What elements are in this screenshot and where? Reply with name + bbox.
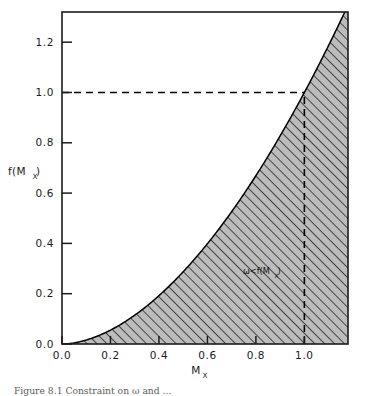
y-tick-label: 0.2 — [36, 287, 55, 299]
y-tick-label: 0.6 — [36, 187, 55, 199]
chart-canvas: 0.00.20.40.60.81.0 0.00.20.40.60.81.01.2… — [0, 0, 365, 396]
y-axis-title: f(M X ) — [8, 165, 41, 181]
y-tick-label: 1.2 — [36, 36, 55, 48]
y-axis-title-text: f(M — [8, 165, 26, 177]
x-axis-tick-labels: 0.00.20.40.60.81.0 — [53, 349, 314, 361]
region-annotation-text: ω<f(M — [243, 266, 270, 276]
region-annotation-closeparen: ) — [278, 266, 281, 276]
y-tick-label: 0.4 — [36, 237, 55, 249]
x-tick-label: 0.6 — [198, 349, 217, 361]
y-tick-label: 0.0 — [36, 338, 55, 350]
y-axis-tick-labels: 0.00.20.40.60.81.01.2 — [36, 36, 55, 350]
figure-caption-text: Figure 8.1 Constraint on ω and ... — [14, 386, 359, 396]
x-tick-label: 0.8 — [247, 349, 266, 361]
figure-container: 0.00.20.40.60.81.0 0.00.20.40.60.81.01.2… — [0, 0, 365, 396]
x-tick-label: 0.0 — [53, 349, 72, 361]
y-tick-label: 1.0 — [36, 86, 55, 98]
x-axis-title-subscript: X — [203, 371, 208, 380]
y-axis-title-closeparen: ) — [36, 165, 41, 177]
x-axis-title: M X — [191, 364, 207, 380]
x-tick-label: 0.2 — [101, 349, 120, 361]
x-axis-title-text: M — [191, 364, 200, 376]
y-tick-label: 0.8 — [36, 136, 55, 148]
figure-caption-strip: Figure 8.1 Constraint on ω and ... — [0, 386, 365, 396]
x-tick-label: 0.4 — [150, 349, 169, 361]
x-tick-label: 1.0 — [295, 349, 314, 361]
